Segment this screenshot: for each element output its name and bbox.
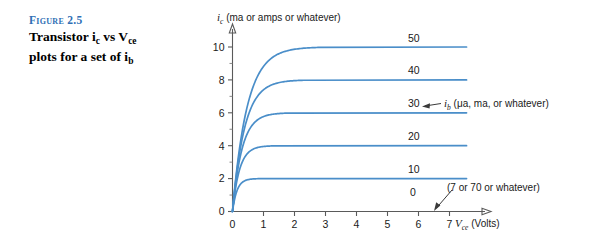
curve-ib-10 [233,179,467,212]
x-tick-label: 7 [447,218,453,230]
ib-annotation-group: ib (μa, ma, or whatever) [422,97,549,112]
y-tick-label: 0 [219,205,225,217]
x-tick-label: 5 [385,218,391,230]
chart-svg: ic (ma or amps or whatever) 0246810 0123… [200,0,592,242]
caption-line2-sub-b: b [128,56,133,66]
curve-label-20: 20 [408,130,420,142]
x-tick-label: 0 [230,218,236,230]
x-tick-label: 3 [323,218,329,230]
y-axis-title-unit: (ma or amps or whatever) [226,12,340,23]
curve-label-10: 10 [408,163,420,175]
x-tick-label: 6 [416,218,422,230]
vce-max-annotation-arrowhead [434,202,440,211]
curve-ib-30 [233,113,467,212]
curve-labels-group: 1020304050 [408,32,420,176]
caption-line1-mid: vs V [100,29,128,44]
y-tick-label: 10 [213,41,225,53]
y-tick-label: 8 [219,74,225,86]
caption-line2: plots for a set of ib [29,49,133,64]
baseline-curve-label: 0 [410,186,416,198]
curve-label-50: 50 [408,32,420,44]
x-tick-label: 1 [261,218,267,230]
x-axis-title-unit: (Volts) [471,218,499,229]
y-tick-label: 2 [219,172,225,184]
caption-line1-pre: Transistor i [29,29,96,44]
ib-annotation-text: ib (μa, ma, or whatever) [444,97,549,112]
x-tick-label: 4 [354,218,360,230]
caption-line2-pre: plots for a set of i [29,49,128,64]
curve-label-40: 40 [408,64,420,76]
x-axis-tick-labels: 01234567 [230,218,453,230]
x-tick-label: 2 [292,218,298,230]
x-axis-title: Vce (Volts) [455,217,500,232]
transistor-characteristic-chart: ic (ma or amps or whatever) 0246810 0123… [200,0,592,242]
x-axis-ticks [264,212,450,217]
ib-annotation-arrowhead [422,103,430,108]
curve-ib-50 [233,47,467,212]
figure-number: Figure 2.5 [29,13,204,27]
caption-line1: Transistor ic vs Vce [29,29,137,44]
curves-group [233,47,467,212]
ib-annotation-label: (μa, ma, or whatever) [454,98,549,109]
vce-max-annotation-group: (7 or 70 or whatever) [434,182,540,211]
caption-line1-sub-ce: ce [128,36,136,46]
figure-caption-text: Transistor ic vs Vce plots for a set of … [29,29,204,69]
curve-label-30: 30 [408,97,420,109]
y-tick-label: 6 [219,107,225,119]
y-tick-label: 4 [219,140,225,152]
y-axis-title: ic (ma or amps or whatever) [217,11,341,26]
vce-max-annotation-text: (7 or 70 or whatever) [447,182,540,193]
y-axis-tick-labels: 0246810 [213,41,225,218]
figure-caption-block: Figure 2.5 Transistor ic vs Vce plots fo… [29,13,204,69]
